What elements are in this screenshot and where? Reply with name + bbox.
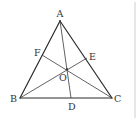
point-o-dot [66,68,68,70]
label-c: C [114,93,121,104]
label-d: D [68,101,76,112]
label-o: O [59,72,67,83]
point-a-dot [59,20,61,22]
label-f: F [34,47,41,58]
label-a: A [56,8,64,19]
side-ca [60,21,112,98]
label-e: E [89,51,96,62]
triangle-diagram: A B C D E F O [0,0,140,120]
cevian-cf [42,55,112,98]
cevian-ad [60,21,71,98]
label-b: B [10,93,17,104]
